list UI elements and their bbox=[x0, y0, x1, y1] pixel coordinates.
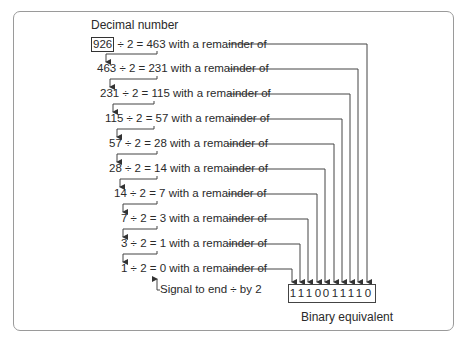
decimal-input-box: 926 bbox=[91, 37, 114, 52]
division-row: 14 ÷ 2 = 7 with a remainder of bbox=[114, 187, 266, 199]
diagram-title: Decimal number bbox=[91, 18, 178, 32]
division-row: 57 ÷ 2 = 28 with a remainder of bbox=[109, 137, 268, 149]
binary-digit: 1 bbox=[339, 287, 347, 299]
division-row: 926 ÷ 2 = 463 with a remainder of bbox=[91, 37, 267, 52]
division-row: 115 ÷ 2 = 57 with a remainder of bbox=[105, 112, 269, 124]
binary-digit: 1 bbox=[289, 287, 297, 299]
binary-result-box: 1 1 1 0 0 1 1 1 1 0 bbox=[288, 284, 376, 303]
division-row: 3 ÷ 2 = 1 with a remainder of bbox=[121, 237, 267, 249]
binary-label: Binary equivalent bbox=[301, 310, 393, 324]
signal-note: Signal to end ÷ by 2 bbox=[160, 283, 262, 295]
binary-digit: 1 bbox=[347, 287, 355, 299]
binary-digit: 1 bbox=[297, 287, 305, 299]
division-row: 1 ÷ 2 = 0 with a remainder of bbox=[121, 262, 267, 274]
binary-digit: 1 bbox=[331, 287, 339, 299]
division-row: 28 ÷ 2 = 14 with a remainder of bbox=[109, 162, 268, 174]
binary-digit: 1 bbox=[355, 287, 363, 299]
binary-digit: 1 bbox=[305, 287, 313, 299]
division-row: 231 ÷ 2 = 115 with a remainder of bbox=[100, 87, 271, 99]
division-row: 463 ÷ 2 = 231 with a remainder of bbox=[97, 62, 269, 74]
binary-digit: 0 bbox=[364, 287, 372, 299]
binary-digit: 0 bbox=[322, 287, 330, 299]
binary-digit: 0 bbox=[314, 287, 322, 299]
division-row: 7 ÷ 2 = 3 with a remainder of bbox=[121, 212, 267, 224]
